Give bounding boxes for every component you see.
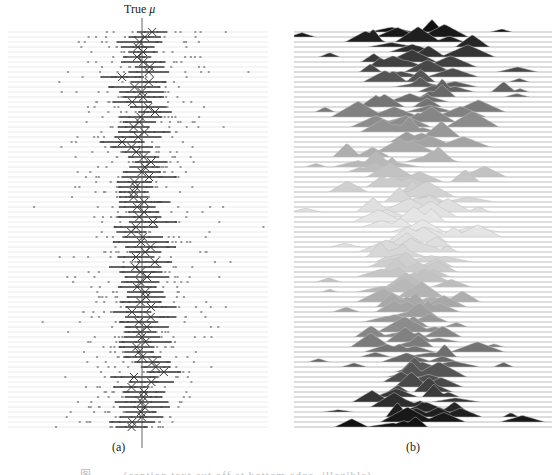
plot-canvas (0, 0, 556, 475)
panel-b-label: (b) (406, 440, 420, 455)
true-mu-text: True (124, 2, 146, 16)
panel-a-label: (a) (112, 440, 125, 455)
panel-b-ridgeline-plot (294, 20, 552, 428)
mu-symbol: μ (149, 2, 155, 16)
figure: True μ (a) (b) 图 …… (caption text cut of… (0, 0, 556, 475)
panel-a-dot-errorbar-plot (8, 18, 268, 448)
true-mu-annotation: True μ (124, 2, 155, 17)
figure-caption: 图 …… (caption text cut off at bottom edg… (80, 467, 480, 475)
